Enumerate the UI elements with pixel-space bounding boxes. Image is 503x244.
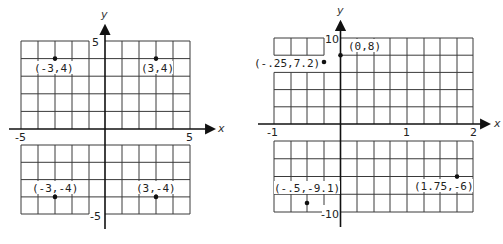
right-point-neg025-72 bbox=[322, 60, 327, 65]
right-y-axis-label: y bbox=[336, 4, 344, 17]
right-tick-x-min: -1 bbox=[267, 126, 278, 139]
right-point-neg05-neg91 bbox=[305, 201, 310, 206]
right-point-label-0-8: (0,8) bbox=[348, 40, 381, 53]
left-tick-y-min: -5 bbox=[90, 210, 101, 223]
left-point-label-3-neg4: (3,-4) bbox=[136, 182, 176, 195]
left-point-neg3-neg4 bbox=[53, 195, 58, 200]
left-tick-x-min: -5 bbox=[15, 131, 26, 144]
figure: x y -5 5 5 -5 (-3,4) (3,4) (-3,-4) (3,-4… bbox=[0, 0, 503, 244]
right-point-label-neg025-72: (-.25,7.2) bbox=[254, 57, 320, 70]
left-point-label-neg3-4: (-3,4) bbox=[34, 62, 74, 75]
right-tick-x-1: 1 bbox=[403, 126, 410, 139]
right-tick-y-min: -10 bbox=[321, 208, 339, 221]
right-point-label-neg05-neg91: (-.5,-9.1) bbox=[274, 182, 340, 195]
right-tick-x-max: 2 bbox=[470, 126, 477, 139]
left-tick-x-max: 5 bbox=[186, 131, 193, 144]
left-y-axis-label: y bbox=[100, 8, 108, 21]
left-tick-y-max: 5 bbox=[92, 36, 99, 49]
left-point-3-4 bbox=[154, 56, 159, 61]
right-point-0-8 bbox=[338, 53, 343, 58]
left-x-axis-label: x bbox=[217, 122, 225, 135]
left-point-neg3-4 bbox=[53, 56, 58, 61]
left-point-label-3-4: (3,4) bbox=[141, 62, 174, 75]
right-point-label-175-neg6: (1.75,-6) bbox=[414, 180, 474, 193]
right-point-175-neg6 bbox=[455, 174, 460, 179]
right-x-axis-label: x bbox=[493, 117, 501, 130]
left-graph: x y -5 5 5 -5 (-3,4) (3,4) (-3,-4) (3,-4… bbox=[9, 8, 225, 229]
right-graph: x y -1 1 2 10 -10 (0,8) (-.25,7.2) (-.5,… bbox=[254, 4, 501, 227]
left-point-3-neg4 bbox=[154, 195, 159, 200]
right-tick-y-max: 10 bbox=[325, 33, 339, 46]
left-point-label-neg3-neg4: (-3,-4) bbox=[32, 182, 78, 195]
